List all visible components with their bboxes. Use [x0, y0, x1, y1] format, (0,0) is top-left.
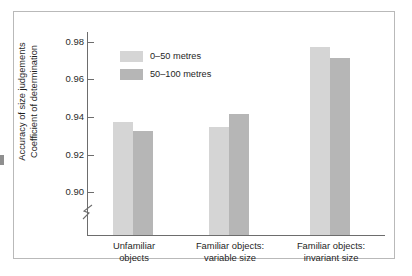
bar-variable-50-100[interactable] — [229, 114, 249, 235]
x-label-line-2: invariant size — [266, 252, 396, 264]
figure-frame: Accuracy of size judgements Coefficient … — [13, 11, 395, 259]
legend-label-50-100: 50–100 metres — [150, 69, 211, 80]
bar-variable-0-50[interactable] — [209, 127, 229, 235]
x-label-line-1: Familiar objects: — [266, 240, 396, 252]
legend-item-0-50-metres[interactable]: 0–50 metres — [120, 50, 211, 63]
bar-invariant-0-50[interactable] — [310, 47, 330, 235]
bar-invariant-50-100[interactable] — [330, 58, 350, 235]
legend-label-0-50: 0–50 metres — [150, 51, 201, 62]
x-axis-label-familiar-invariant: Familiar objects: invariant size — [266, 240, 396, 264]
legend: 0–50 metres 50–100 metres — [120, 50, 211, 86]
legend-swatch-50-100 — [120, 69, 143, 80]
bar-group-familiar-invariant-size — [310, 37, 352, 235]
bar-group-familiar-variable-size — [209, 37, 251, 235]
bar-unfamiliar-0-50[interactable] — [113, 122, 133, 235]
plot-area: Accuracy of size judgements Coefficient … — [14, 12, 396, 260]
bar-unfamiliar-50-100[interactable] — [133, 131, 153, 235]
legend-swatch-0-50 — [120, 51, 143, 62]
legend-item-50-100-metres[interactable]: 50–100 metres — [120, 68, 211, 81]
page-edge-artifact — [0, 155, 4, 165]
